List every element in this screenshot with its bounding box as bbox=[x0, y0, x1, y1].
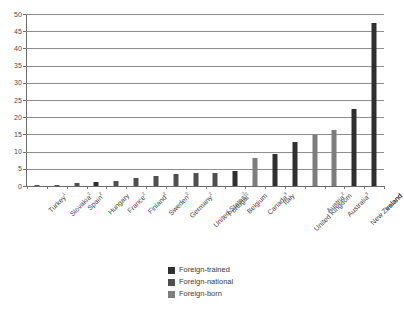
bar-slot bbox=[225, 14, 245, 186]
x-axis-tick-mark bbox=[285, 186, 286, 189]
bar bbox=[233, 171, 238, 186]
bar bbox=[253, 158, 258, 186]
bar-slot bbox=[325, 14, 345, 186]
y-axis-tick-mark bbox=[23, 117, 26, 118]
x-axis-tick-mark bbox=[186, 186, 187, 189]
bar bbox=[272, 154, 277, 186]
bar-slot bbox=[206, 14, 226, 186]
legend-label: Foreign-born bbox=[179, 290, 222, 298]
x-axis-tick-mark bbox=[146, 186, 147, 189]
bar-slot bbox=[285, 14, 305, 186]
y-axis-tick-label: 25 bbox=[2, 97, 22, 104]
y-axis-tick-mark bbox=[23, 14, 26, 15]
legend-item[interactable]: Foreign-trained bbox=[168, 264, 233, 276]
x-axis-tick-mark bbox=[225, 186, 226, 189]
bar-slot bbox=[106, 14, 126, 186]
y-axis-tick-label: 5 bbox=[2, 165, 22, 172]
legend-label: Foreign-trained bbox=[179, 266, 230, 274]
legend-swatch-icon bbox=[168, 279, 175, 286]
bar-slot bbox=[67, 14, 87, 186]
bar-slot bbox=[265, 14, 285, 186]
x-axis-tick-mark bbox=[47, 186, 48, 189]
x-axis-tick-mark bbox=[364, 186, 365, 189]
x-axis-label: Ireland bbox=[383, 192, 404, 213]
bar bbox=[292, 142, 297, 186]
y-axis-tick-mark bbox=[23, 134, 26, 135]
y-axis-tick-label: 0 bbox=[2, 183, 22, 190]
y-axis-tick-mark bbox=[23, 66, 26, 67]
bar bbox=[173, 174, 178, 186]
x-axis-tick-mark bbox=[206, 186, 207, 189]
bar bbox=[372, 23, 377, 186]
x-axis-tick-mark bbox=[265, 186, 266, 189]
y-axis-tick-mark bbox=[23, 169, 26, 170]
legend-label: Foreign-national bbox=[179, 278, 233, 286]
bar bbox=[213, 173, 218, 186]
y-axis-tick-label: 35 bbox=[2, 62, 22, 69]
bar bbox=[312, 135, 317, 186]
bar-slot bbox=[186, 14, 206, 186]
y-axis-tick-label: 40 bbox=[2, 45, 22, 52]
x-axis-tick-mark bbox=[106, 186, 107, 189]
bar-slot bbox=[344, 14, 364, 186]
x-axis-tick-mark bbox=[344, 186, 345, 189]
legend-item[interactable]: Foreign-national bbox=[168, 276, 233, 288]
x-axis-label: Hungary bbox=[107, 192, 131, 216]
y-axis-tick-label: 10 bbox=[2, 148, 22, 155]
x-axis-tick-mark bbox=[27, 186, 28, 189]
x-axis-tick-mark bbox=[126, 186, 127, 189]
y-axis-tick-label: 20 bbox=[2, 114, 22, 121]
x-axis bbox=[27, 186, 384, 190]
x-axis-label: Germany2 bbox=[188, 192, 216, 220]
y-axis-tick-label: 30 bbox=[2, 79, 22, 86]
bar bbox=[153, 176, 158, 186]
bar-slot bbox=[47, 14, 67, 186]
y-axis-tick-label: 50 bbox=[2, 11, 22, 18]
legend-swatch-icon bbox=[168, 267, 175, 274]
x-axis-tick-mark bbox=[245, 186, 246, 189]
bar-slot bbox=[27, 14, 47, 186]
y-axis-tick-mark bbox=[23, 152, 26, 153]
x-axis-label: Turkey1 bbox=[47, 192, 69, 214]
legend: Foreign-trainedForeign-nationalForeign-b… bbox=[168, 264, 233, 300]
legend-item[interactable]: Foreign-born bbox=[168, 288, 233, 300]
bar-slot bbox=[146, 14, 166, 186]
bar-slot bbox=[166, 14, 186, 186]
y-axis-tick-mark bbox=[23, 48, 26, 49]
bar bbox=[332, 130, 337, 186]
legend-swatch-icon bbox=[168, 291, 175, 298]
y-axis-tick-mark bbox=[23, 186, 26, 187]
x-axis-tick-mark bbox=[384, 186, 385, 189]
bar-slot bbox=[87, 14, 107, 186]
x-axis-tick-mark bbox=[305, 186, 306, 189]
x-axis-tick-mark bbox=[67, 186, 68, 189]
bar bbox=[193, 173, 198, 186]
y-axis-tick-mark bbox=[23, 100, 26, 101]
bar bbox=[352, 109, 357, 186]
bar bbox=[134, 178, 139, 186]
bar-slot bbox=[305, 14, 325, 186]
y-axis-tick-mark bbox=[23, 83, 26, 84]
x-axis-tick-mark bbox=[87, 186, 88, 189]
x-axis-tick-mark bbox=[325, 186, 326, 189]
bar-slot bbox=[245, 14, 265, 186]
x-axis-tick-mark bbox=[166, 186, 167, 189]
y-axis-tick-label: 45 bbox=[2, 28, 22, 35]
y-axis-tick-mark bbox=[23, 31, 26, 32]
bar-slot bbox=[126, 14, 146, 186]
bar-slot bbox=[364, 14, 384, 186]
bars-layer bbox=[27, 14, 384, 186]
y-axis-tick-label: 15 bbox=[2, 131, 22, 138]
